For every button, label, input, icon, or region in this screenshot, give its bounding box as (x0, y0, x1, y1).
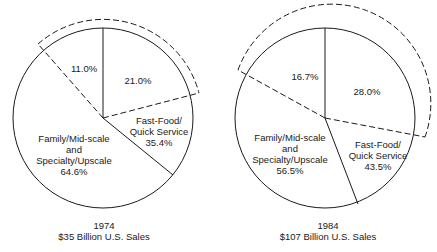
pie-1984-family-line3: Specialty/Upscale (252, 154, 328, 165)
pie-1974-top100-family-pct: 11.0% (71, 63, 97, 74)
pie-1984-family-pct: 56.5% (277, 165, 304, 176)
pie-1984-year: 1984 (317, 220, 338, 231)
pie-1984-top100-right-boundary (325, 118, 425, 137)
pie-1974-fastfood-pct: 35.4% (146, 137, 173, 148)
pie-1974-fastfood-line2: Quick Service (130, 126, 189, 137)
pie-1974-top100-fastfood-pct: 21.0% (125, 75, 152, 86)
pie-1974-family-pct: 64.6% (61, 166, 88, 177)
pie-1984-fastfood-line1: Fast-Food/ (355, 139, 401, 150)
pie-1974-family-line2: and (66, 144, 82, 155)
pie-1984 (235, 4, 431, 208)
pie-1974-sales: $35 Billion U.S. Sales (58, 231, 149, 242)
pie-1984-top100-fastfood-pct: 28.0% (354, 86, 381, 97)
pie-1974-fastfood-line1: Fast-Food/ (136, 115, 182, 126)
pie-1984-fastfood-line2: Quick Service (349, 150, 408, 161)
pie-1984-top100-label: TOP 100 COMPANIES (282, 0, 377, 2)
pie-charts: TOP 100 COMPANIES TOP 100 COMPANIES (0, 0, 437, 252)
pie-1974-top100-left-boundary (38, 44, 103, 118)
pie-1974-year: 1974 (93, 220, 114, 231)
pie-1974-family-line3: Specialty/Upscale (36, 155, 112, 166)
pie-1974-top100-label: TOP 100 COMPANIES (60, 0, 155, 2)
pie-1974-top100-bracket (38, 19, 199, 93)
pie-1984-fastfood-divider (325, 118, 358, 204)
pie-1984-family-line2: and (282, 143, 298, 154)
pie-1974 (13, 19, 199, 208)
pie-1974-family-line1: Family/Mid-scale (38, 133, 109, 144)
pie-1984-sales: $107 Billion U.S. Sales (280, 231, 377, 242)
pie-1984-fastfood-pct: 43.5% (365, 161, 392, 172)
pie-1984-family-line1: Family/Mid-scale (254, 132, 325, 143)
pie-1984-top100-family-pct: 16.7% (292, 71, 319, 82)
